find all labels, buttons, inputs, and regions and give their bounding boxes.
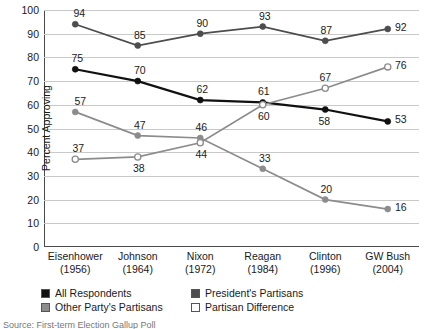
data-point-marker: [135, 154, 141, 160]
data-point-marker: [385, 118, 391, 124]
x-category-label: GW Bush(2004): [365, 250, 410, 275]
x-category-name: GW Bush: [365, 250, 410, 262]
data-point-marker: [197, 140, 203, 146]
legend-item[interactable]: President's Partisans: [191, 287, 351, 299]
legend-swatch-icon: [191, 303, 200, 312]
data-point-marker: [385, 64, 391, 70]
x-category-year: (2004): [365, 263, 410, 276]
source-note: Source: First-term Election Gallup Poll: [3, 320, 156, 329]
x-category-name: Johnson: [118, 250, 158, 262]
data-point-marker: [322, 38, 328, 44]
chart-legend: All RespondentsPresident's PartisansOthe…: [41, 286, 371, 314]
legend-label: Other Party's Partisans: [55, 301, 163, 313]
legend-label: All Respondents: [55, 287, 131, 299]
data-point-marker: [322, 107, 328, 113]
y-tick-label: 60: [27, 99, 39, 111]
data-point-marker: [385, 206, 391, 212]
data-point-marker: [135, 133, 141, 139]
x-category-year: (1984): [244, 263, 281, 276]
data-point-marker: [197, 31, 203, 37]
data-point-marker: [260, 24, 266, 30]
y-tick-label: 100: [21, 4, 39, 16]
y-tick-label: 70: [27, 75, 39, 87]
x-category-name: Clinton: [309, 250, 342, 262]
data-point-marker: [385, 26, 391, 32]
data-point-marker: [260, 102, 266, 108]
legend-label: Partisan Difference: [205, 301, 294, 313]
legend-item[interactable]: Partisan Difference: [191, 301, 351, 313]
y-tick-label: 80: [27, 51, 39, 63]
series-line: [75, 24, 388, 45]
x-category-year: (1956): [48, 263, 103, 276]
y-axis-title: Percent Approving: [40, 85, 52, 171]
x-category-year: (1996): [309, 263, 342, 276]
x-category-label: Nixon(1972): [185, 250, 215, 275]
x-category-year: (1964): [118, 263, 158, 276]
x-category-label: Johnson(1964): [118, 250, 158, 275]
data-point-marker: [322, 197, 328, 203]
legend-label: President's Partisans: [205, 287, 303, 299]
data-point-marker: [72, 109, 78, 115]
data-point-marker: [135, 78, 141, 84]
x-category-name: Reagan: [244, 250, 281, 262]
legend-swatch-icon: [41, 289, 50, 298]
y-tick-label: 10: [27, 217, 39, 229]
data-point-marker: [135, 43, 141, 49]
y-tick-label: 90: [27, 28, 39, 40]
x-category-label: Eisenhower(1956): [48, 250, 103, 275]
x-category-name: Nixon: [187, 250, 214, 262]
data-point-marker: [260, 166, 266, 172]
series-line: [75, 112, 388, 209]
x-category-label: Clinton(1996): [309, 250, 342, 275]
x-category-name: Eisenhower: [48, 250, 103, 262]
legend-swatch-icon: [191, 289, 200, 298]
x-category-label: Reagan(1984): [244, 250, 281, 275]
chart-figure: 0102030405060708090100 75706261585394859…: [0, 0, 425, 329]
x-category-year: (1972): [185, 263, 215, 276]
y-tick-label: 0: [33, 241, 39, 253]
data-point-marker: [197, 97, 203, 103]
y-tick-label: 40: [27, 146, 39, 158]
plot-area: 0102030405060708090100 75706261585394859…: [44, 10, 419, 247]
y-tick-label: 30: [27, 170, 39, 182]
data-point-marker: [72, 21, 78, 27]
legend-item[interactable]: Other Party's Partisans: [41, 301, 191, 313]
series-lines: [44, 10, 419, 247]
y-tick-label: 50: [27, 123, 39, 135]
data-point-marker: [322, 85, 328, 91]
data-point-marker: [72, 156, 78, 162]
series-line: [75, 69, 388, 121]
legend-swatch-icon: [41, 303, 50, 312]
data-point-marker: [72, 66, 78, 72]
legend-item[interactable]: All Respondents: [41, 287, 191, 299]
x-axis-category-labels: Eisenhower(1956)Johnson(1964)Nixon(1972)…: [44, 250, 419, 280]
y-tick-label: 20: [27, 194, 39, 206]
